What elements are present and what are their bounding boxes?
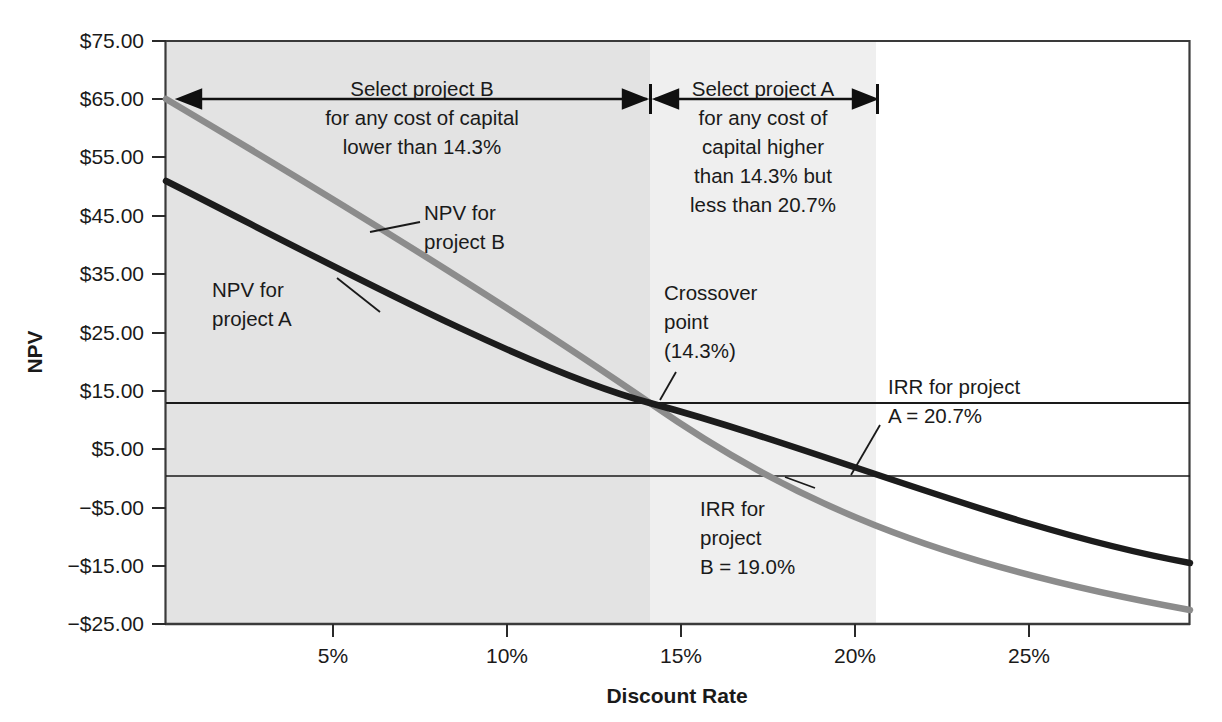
annotation-select-project-a: Select project A for any cost of capital… (690, 77, 836, 216)
y-tick-label: $65.00 (80, 87, 144, 110)
annotation-line: (14.3%) (664, 339, 736, 362)
y-tick-label: −$25.00 (68, 612, 145, 635)
x-tick-label: 25% (1008, 644, 1050, 667)
x-tick-labels: 5% 10% 15% 20% 25% (318, 644, 1050, 667)
x-tick-label: 20% (834, 644, 876, 667)
x-tick-label: 10% (486, 644, 528, 667)
annotation-select-project-b: Select project B for any cost of capital… (325, 77, 519, 158)
annotation-line: B = 19.0% (700, 555, 795, 578)
annotation-line: for any cost of (699, 106, 828, 129)
y-tick-label: $55.00 (80, 145, 144, 168)
y-tick-marks (152, 41, 166, 624)
annotation-line: Crossover (664, 281, 758, 304)
chart-figure: $75.00 $65.00 $55.00 $45.00 $35.00 $25.0… (0, 0, 1222, 722)
annotation-line: point (664, 310, 709, 333)
annotation-line: Select project A (692, 77, 835, 100)
annotation-line: IRR for (700, 497, 765, 520)
annotation-line: for any cost of capital (325, 106, 519, 129)
y-tick-labels: $75.00 $65.00 $55.00 $45.00 $35.00 $25.0… (68, 29, 145, 635)
x-tick-label: 5% (318, 644, 348, 667)
y-tick-label: −$15.00 (68, 554, 145, 577)
y-tick-label: $75.00 (80, 29, 144, 52)
y-tick-label: $15.00 (80, 379, 144, 402)
annotation-line: NPV for (212, 278, 284, 301)
annotation-line: IRR for project (888, 375, 1020, 398)
x-tick-label: 15% (660, 644, 702, 667)
y-tick-label: −$5.00 (79, 496, 144, 519)
annotation-line: project (700, 526, 762, 549)
y-tick-label: $5.00 (91, 437, 144, 460)
annotation-line: lower than 14.3% (343, 135, 501, 158)
annotation-line: capital higher (702, 135, 824, 158)
npv-crossover-chart: $75.00 $65.00 $55.00 $45.00 $35.00 $25.0… (0, 0, 1222, 722)
annotation-line: less than 20.7% (690, 193, 836, 216)
annotation-line: NPV for (424, 201, 496, 224)
y-axis-title: NPV (23, 330, 46, 373)
annotation-line: than 14.3% but (694, 164, 832, 187)
y-tick-label: $35.00 (80, 262, 144, 285)
annotation-line: project A (212, 307, 292, 330)
annotation-line: project B (424, 230, 505, 253)
annotation-line: Select project B (350, 77, 494, 100)
y-tick-label: $45.00 (80, 204, 144, 227)
x-axis-title: Discount Rate (606, 684, 747, 707)
annotation-line: A = 20.7% (888, 404, 982, 427)
y-tick-label: $25.00 (80, 321, 144, 344)
x-tick-marks (333, 624, 1029, 637)
